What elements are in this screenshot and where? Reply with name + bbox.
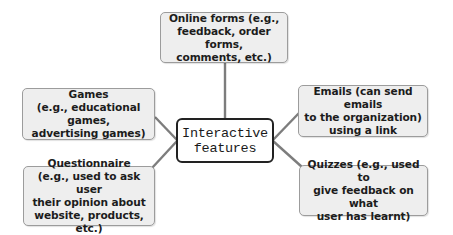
- connector-left-lower: [152, 141, 177, 168]
- connector-left-upper: [155, 117, 177, 140]
- connector-right-lower: [273, 141, 302, 167]
- node-games: Games (e.g., educational games, advertis…: [22, 88, 155, 140]
- connector-right-upper: [273, 113, 299, 140]
- node-quizzes: Quizzes (e.g., used to give feedback on …: [299, 165, 428, 216]
- node-games-label: Games (e.g., educational games, advertis…: [23, 88, 154, 140]
- node-online-forms: Online forms (e.g., feedback, order form…: [160, 12, 288, 63]
- node-questionnaire-label: Questionnaire (e.g., used to ask user th…: [24, 157, 154, 235]
- node-quizzes-label: Quizzes (e.g., used to give feedback on …: [300, 158, 427, 223]
- center-node-interactive-features: Interactive features: [176, 118, 274, 163]
- node-emails-label: Emails (can send emails to the organizat…: [299, 85, 427, 137]
- center-node-label: Interactive features: [182, 126, 268, 156]
- node-questionnaire: Questionnaire (e.g., used to ask user th…: [23, 166, 155, 226]
- node-online-forms-label: Online forms (e.g., feedback, order form…: [161, 12, 287, 64]
- mind-map-diagram: Online forms (e.g., feedback, order form…: [0, 0, 453, 235]
- node-emails: Emails (can send emails to the organizat…: [298, 85, 428, 137]
